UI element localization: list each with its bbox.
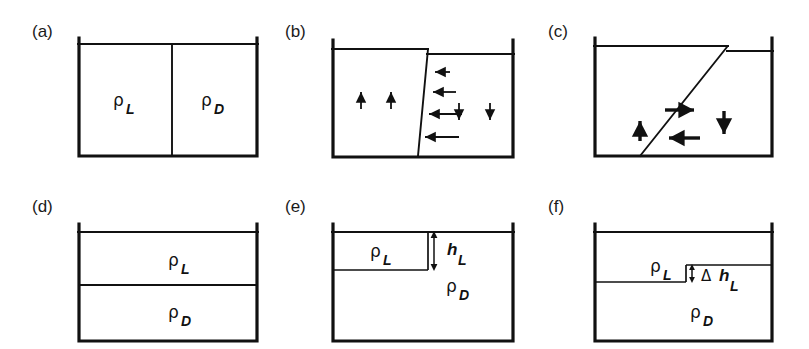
panel-c: (c): [548, 22, 773, 156]
label-density-light-f: ρ L: [650, 256, 672, 283]
panel-f: (f) Δ h L ρ L ρ D: [548, 197, 773, 341]
label-density-dense-e: ρ D: [446, 276, 469, 303]
figure-svg: (a) ρ L ρ D (b): [0, 0, 809, 349]
flow-arrows-left-b: [425, 72, 462, 137]
rho-subscript: D: [214, 101, 224, 117]
rho-subscript: L: [663, 267, 672, 283]
panel-a: (a) ρ L ρ D: [32, 22, 258, 156]
dimension-arrowhead-down: [689, 277, 695, 283]
h-subscript: L: [458, 252, 467, 268]
label-density-dense-f: ρ D: [690, 302, 713, 329]
panel-b-letter: (b): [285, 22, 306, 41]
label-step-height-f: Δ h L: [701, 266, 739, 294]
rho-symbol: ρ: [690, 302, 701, 322]
h-subscript: L: [730, 278, 739, 294]
rho-symbol: ρ: [370, 241, 381, 261]
panel-b: (b): [285, 22, 514, 157]
tank-outline-e: [333, 224, 513, 341]
dimension-h-L-e: [431, 231, 438, 271]
rho-symbol: ρ: [168, 302, 179, 322]
rho-symbol: ρ: [113, 90, 124, 110]
rho-subscript: L: [383, 252, 392, 268]
label-density-light-a: ρ L: [113, 90, 135, 117]
dimension-delta-h-L-f: [689, 264, 695, 283]
figure-canvas: (a) ρ L ρ D (b): [0, 0, 809, 349]
h-symbol: h: [447, 240, 457, 259]
panel-c-letter: (c): [548, 22, 568, 41]
rho-subscript: D: [703, 313, 713, 329]
tank-outline-a: [79, 38, 257, 156]
rho-symbol: ρ: [446, 276, 457, 296]
rho-subscript: D: [181, 313, 191, 329]
panel-e: (e) h L ρ L ρ D: [285, 197, 514, 341]
rho-subscript: D: [459, 287, 469, 303]
dimension-arrowhead-down: [431, 264, 438, 271]
delta-symbol: Δ: [701, 267, 712, 285]
label-layer-depth-e: h L: [447, 240, 467, 268]
flow-arrows-down-b: [459, 103, 490, 120]
rho-subscript: L: [181, 261, 190, 277]
rho-symbol: ρ: [168, 250, 179, 270]
panel-d-letter: (d): [32, 197, 53, 216]
h-symbol: h: [719, 266, 729, 285]
interface-b: [418, 49, 428, 156]
flow-arrows-up-b: [361, 92, 391, 109]
label-density-light-e: ρ L: [370, 241, 392, 268]
rho-symbol: ρ: [650, 256, 661, 276]
panel-a-letter: (a): [32, 22, 53, 41]
panel-f-letter: (f): [548, 197, 564, 216]
rho-symbol: ρ: [201, 90, 212, 110]
panel-d: (d) ρ L ρ D: [32, 197, 258, 341]
panel-e-letter: (e): [285, 197, 306, 216]
rho-subscript: L: [126, 101, 135, 117]
label-density-dense-a: ρ D: [201, 90, 224, 117]
label-density-light-d: ρ L: [168, 250, 190, 277]
tank-outline-d: [79, 224, 257, 341]
label-density-dense-d: ρ D: [168, 302, 191, 329]
